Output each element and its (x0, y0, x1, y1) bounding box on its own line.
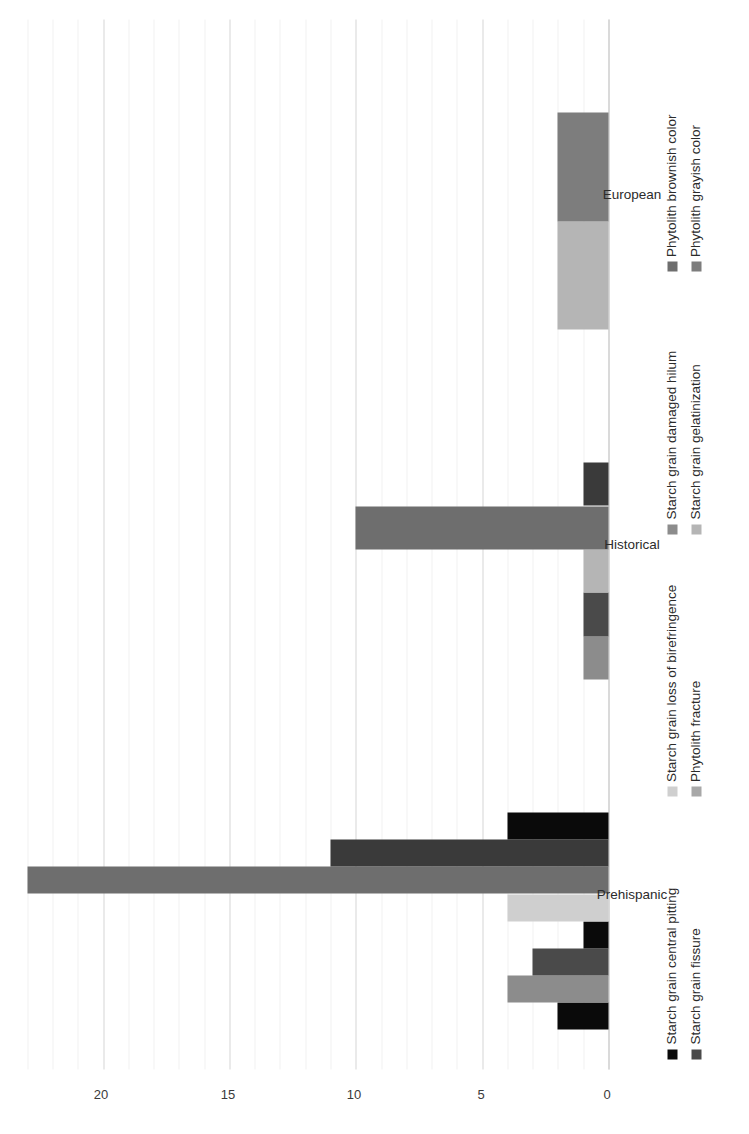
bar (557, 221, 608, 330)
gridline-minor (204, 19, 205, 1069)
bar (532, 948, 608, 975)
legend-label: Phytolith brownish color (663, 114, 678, 257)
legend-label: Phytolith fracture (687, 680, 702, 781)
legend-swatch (691, 262, 701, 272)
gridline-minor (279, 19, 280, 1069)
legend-label: Phytolith grayish color (687, 124, 702, 256)
bar (355, 506, 608, 549)
legend-label: Starch grain central pitting (663, 887, 678, 1044)
gridline-major (103, 19, 104, 1069)
axis-tick-label: 0 (590, 1087, 624, 1102)
axes (14, 19, 608, 1069)
bar (27, 866, 608, 893)
gridline-minor (178, 19, 179, 1069)
legend-label: Starch grain loss of birefringence (663, 584, 678, 781)
gridline-minor (128, 19, 129, 1069)
gridline-minor (305, 19, 306, 1069)
legend-swatch (667, 524, 677, 534)
gridline-minor (153, 19, 154, 1069)
legend-swatch (691, 787, 701, 797)
bar (583, 549, 608, 592)
gridline-minor (254, 19, 255, 1069)
legend-swatch (691, 524, 701, 534)
legend-swatch (667, 262, 677, 272)
legend-label: Starch grain fissure (687, 928, 702, 1044)
bar (583, 921, 608, 948)
gridline-minor (77, 19, 78, 1069)
bar (557, 1002, 608, 1029)
legend-label: Starch grain gelatinization (687, 364, 702, 519)
axis-tick-label: 15 (210, 1087, 244, 1102)
legend-swatch (667, 1049, 677, 1059)
bar (583, 462, 608, 505)
rotated-chart-container: 20151050 PrehispanicHistoricalEuropean S… (0, 0, 749, 1134)
axis-tick-label: 5 (463, 1087, 497, 1102)
bar (583, 592, 608, 635)
chart-canvas: 20151050 PrehispanicHistoricalEuropean S… (0, 0, 749, 1134)
bar (507, 812, 608, 839)
gridline-minor (52, 19, 53, 1069)
gridline-major (229, 19, 230, 1069)
legend-swatch (667, 787, 677, 797)
category-label: Historical (572, 537, 692, 552)
legend-label: Starch grain damaged hilum (663, 350, 678, 519)
bar (330, 839, 608, 866)
bar (507, 975, 608, 1002)
axis-tick-label: 10 (337, 1087, 371, 1102)
bar (557, 112, 608, 221)
gridline-minor (330, 19, 331, 1069)
plot-area: 20151050 PrehispanicHistoricalEuropean S… (0, 0, 749, 1134)
bar (583, 636, 608, 679)
axis-tick-label: 20 (84, 1087, 118, 1102)
gridline-minor (27, 19, 28, 1069)
legend-swatch (691, 1049, 701, 1059)
